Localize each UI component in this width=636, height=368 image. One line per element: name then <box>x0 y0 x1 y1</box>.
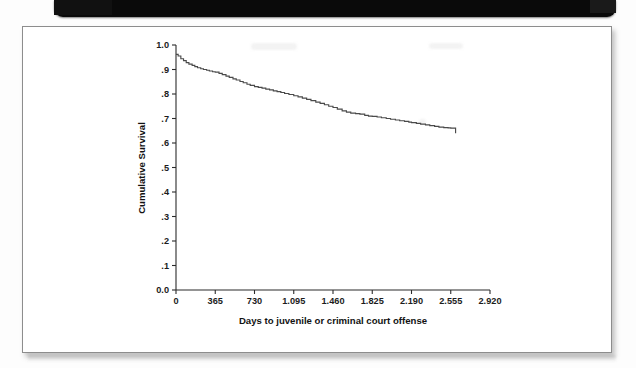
y-tick-label: .3 <box>161 212 169 222</box>
scanned-page: Cumulative Survival 0.0.1.2.3.4.5.6.7.8.… <box>0 0 636 368</box>
y-tick-label: 1.0 <box>156 40 169 50</box>
survival-plot: Cumulative Survival 0.0.1.2.3.4.5.6.7.8.… <box>0 0 636 368</box>
x-tick-label: 0 <box>173 296 178 306</box>
x-tick-label: 1.460 <box>322 296 345 306</box>
y-tick-label: .2 <box>161 236 169 246</box>
x-axis-title: Days to juvenile or criminal court offen… <box>239 315 427 326</box>
x-tick-label: 2.190 <box>400 296 423 306</box>
survival-curve-line <box>176 54 456 133</box>
y-axis-ticks: 0.0.1.2.3.4.5.6.7.8.91.0 <box>156 40 176 295</box>
x-tick-label: 2.555 <box>439 296 462 306</box>
y-axis-title: Cumulative Survival <box>136 122 147 214</box>
x-tick-label: 730 <box>247 296 262 306</box>
y-tick-label: .8 <box>161 89 169 99</box>
x-tick-label: 2.920 <box>479 296 502 306</box>
y-tick-label: .7 <box>161 114 169 124</box>
y-tick-label: .1 <box>161 261 169 271</box>
x-tick-label: 365 <box>208 296 223 306</box>
y-tick-label: .4 <box>161 187 170 197</box>
y-tick-label: 0.0 <box>156 285 169 295</box>
x-axis-ticks: 03657301.0951.4601.8252.1902.5552.920 <box>173 290 501 306</box>
x-tick-label: 1.825 <box>361 296 384 306</box>
y-tick-label: .9 <box>161 65 169 75</box>
x-tick-label: 1.095 <box>282 296 305 306</box>
y-tick-label: .5 <box>161 163 169 173</box>
survival-chart-svg: Cumulative Survival 0.0.1.2.3.4.5.6.7.8.… <box>0 0 636 368</box>
y-tick-label: .6 <box>161 138 169 148</box>
